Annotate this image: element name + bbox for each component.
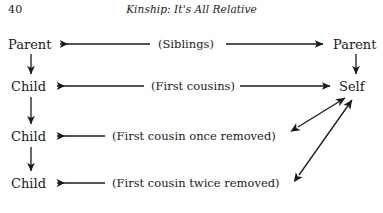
- label-first-cousins: (First cousins): [151, 79, 235, 93]
- kinship-diagram: Parent (Siblings) Parent Child (First co…: [0, 0, 383, 213]
- node-parent-right: Parent: [333, 37, 377, 52]
- label-once-removed: (First cousin once removed): [112, 129, 276, 143]
- book-page: 40 Kinship: It's All Relative: [0, 0, 383, 213]
- node-parent-left: Parent: [8, 37, 52, 52]
- label-siblings: (Siblings): [158, 37, 214, 51]
- edge-twice-removed-diagonal: [299, 100, 352, 175]
- node-self: Self: [339, 79, 366, 94]
- node-child-2: Child: [11, 129, 46, 144]
- edge-once-removed-diagonal: [298, 98, 345, 127]
- node-child-1: Child: [11, 79, 46, 94]
- label-twice-removed: (First cousin twice removed): [112, 176, 280, 190]
- node-child-3: Child: [11, 176, 46, 191]
